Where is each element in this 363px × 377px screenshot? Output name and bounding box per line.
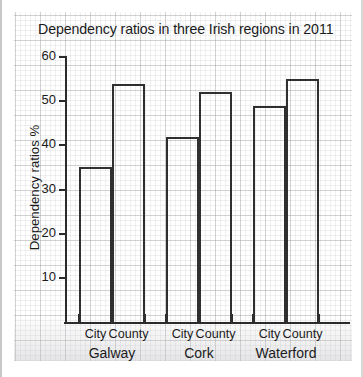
y-tick-10 xyxy=(59,277,66,279)
x-sublabel-galway-county: County xyxy=(100,327,157,341)
x-axis-line xyxy=(64,322,350,324)
y-tick-60 xyxy=(59,56,66,58)
y-tick-label-10: 10 xyxy=(30,269,56,284)
y-tick-label-30: 30 xyxy=(30,181,56,196)
bar-galway-city xyxy=(79,167,112,322)
x-group-label-waterford: Waterford xyxy=(229,345,343,361)
y-tick-40 xyxy=(59,144,66,146)
y-tick-30 xyxy=(59,189,66,191)
x-sublabel-cork-county: County xyxy=(187,327,244,341)
y-tick-50 xyxy=(59,100,66,102)
y-tick-label-20: 20 xyxy=(30,225,56,240)
y-tick-20 xyxy=(59,233,66,235)
bar-cork-city xyxy=(166,137,199,323)
bar-galway-county xyxy=(112,84,145,323)
chart-title: Dependency ratios in three Irish regions… xyxy=(38,21,333,37)
y-tick-label-50: 50 xyxy=(30,92,56,107)
bar-waterford-city xyxy=(253,106,286,322)
bar-cork-county xyxy=(199,92,232,322)
plot-area: Dependency ratios in three Irish regions… xyxy=(0,0,363,377)
y-tick-label-60: 60 xyxy=(30,48,56,63)
y-tick-label-40: 40 xyxy=(30,136,56,151)
x-sublabel-waterford-county: County xyxy=(274,327,331,341)
bar-waterford-county xyxy=(286,79,319,322)
chart-figure: Dependency ratios in three Irish regions… xyxy=(0,0,363,377)
